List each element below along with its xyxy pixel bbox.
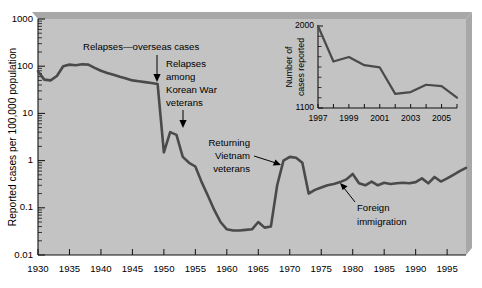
y-tick-label-0.1: 0.1: [20, 201, 33, 212]
annotation-vietnam-line-3: veterans: [213, 163, 250, 174]
inset-x-tick-label-2003: 2003: [401, 113, 420, 123]
y-tick-label-1000: 1000: [12, 13, 33, 24]
y-tick-label-10: 10: [22, 107, 33, 118]
annotation-korean-war-line-1: Relapses: [166, 58, 206, 69]
inset-x-tick-label-2001: 2001: [370, 113, 389, 123]
annotation-foreign-immigration-line-1: Foreign: [357, 202, 390, 213]
inset-y-axis-title-line-2: cases reported: [296, 38, 306, 96]
x-tick-label-1945: 1945: [122, 263, 143, 274]
annotation-korean-war-line-2: among: [166, 71, 195, 82]
x-tick-label-1985: 1985: [374, 263, 395, 274]
annotation-relapses-overseas-label: Relapses—overseas cases: [83, 41, 199, 52]
x-tick-label-1980: 1980: [342, 263, 363, 274]
annotation-korean-war-line-3: Korean War: [166, 84, 218, 95]
y-axis-title: Reported cases per 100,000 population: [7, 48, 18, 226]
x-tick-label-1930: 1930: [27, 263, 48, 274]
x-tick-label-1940: 1940: [90, 263, 111, 274]
y-tick-label-1: 1: [28, 154, 33, 165]
annotation-vietnam-line-1: Returning: [208, 137, 250, 148]
annotation-vietnam-line-2: Vietnam: [215, 150, 250, 161]
inset-y-axis-title-line-1: Number of: [284, 46, 294, 88]
annotation-foreign-immigration-line-2: immigration: [357, 216, 407, 227]
inset-x-tick-label-1999: 1999: [339, 113, 358, 123]
x-tick-label-1935: 1935: [59, 263, 80, 274]
inset-y-tick-label-2000: 2000: [295, 20, 314, 30]
x-tick-label-1960: 1960: [216, 263, 237, 274]
x-tick-label-1975: 1975: [311, 263, 332, 274]
inset-x-tick-label-1997: 1997: [308, 113, 327, 123]
panel-right-bevel: [466, 12, 472, 255]
inset-y-tick-label-1100: 1100: [296, 102, 315, 112]
x-tick-label-1950: 1950: [153, 263, 174, 274]
x-axis-tick-labels: 1930193519401945195019551960196519701975…: [27, 263, 457, 274]
inset-x-tick-label-2005: 2005: [432, 113, 451, 123]
semilog-line-chart: 0.010.11101001000 Reported cases per 100…: [0, 0, 482, 288]
x-tick-label-1990: 1990: [405, 263, 426, 274]
y-tick-label-100: 100: [17, 60, 33, 71]
x-tick-label-1955: 1955: [185, 263, 206, 274]
x-tick-label-1995: 1995: [436, 263, 457, 274]
x-tick-label-1970: 1970: [279, 263, 300, 274]
y-tick-label-0.01: 0.01: [14, 249, 33, 260]
x-tick-label-1965: 1965: [248, 263, 269, 274]
panel-top-bevel: [32, 12, 472, 19]
chart-figure: 0.010.11101001000 Reported cases per 100…: [0, 0, 482, 288]
annotation-korean-war-line-4: veterans: [166, 97, 203, 108]
